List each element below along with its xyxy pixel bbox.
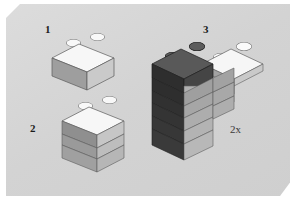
step-3-label: 3 <box>203 24 209 35</box>
step-2-brick-stack <box>62 96 142 174</box>
step-1-brick <box>52 32 124 86</box>
step-3-assembly <box>150 30 280 170</box>
instruction-diagram: 1 2 <box>0 0 296 201</box>
quantity-label: 2x <box>230 124 241 135</box>
step-1-label: 1 <box>45 24 51 35</box>
step-2-label: 2 <box>30 123 36 134</box>
